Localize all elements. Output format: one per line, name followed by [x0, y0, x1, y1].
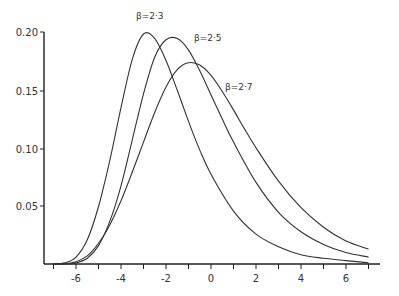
curve-beta-2-3 — [54, 33, 369, 264]
x-tick-label: -2 — [161, 273, 171, 284]
y-tick-label: 0.20 — [16, 27, 38, 38]
x-tick-label: 0 — [208, 273, 214, 284]
y-tick-label: 0.05 — [16, 201, 38, 212]
y-ticks: 0.20 0.15 0.10 0.05 — [16, 27, 44, 212]
series-label-beta-2-5: β=2·5 — [194, 33, 222, 43]
x-tick-label: 2 — [253, 273, 259, 284]
x-tick-label: -4 — [116, 273, 126, 284]
x-tick-label: -6 — [71, 273, 81, 284]
plot-area: 0.20 0.15 0.10 0.05 -6 -4 -2 0 2 4 6 β=2… — [16, 11, 380, 284]
chart: 0.20 0.15 0.10 0.05 -6 -4 -2 0 2 4 6 β=2… — [0, 0, 399, 296]
y-tick-label: 0.10 — [16, 144, 38, 155]
curve-beta-2-5 — [54, 37, 369, 264]
x-tick-label: 6 — [343, 273, 349, 284]
x-tick-label: 4 — [298, 273, 304, 284]
curve-beta-2-7 — [54, 63, 369, 265]
series-label-beta-2-7: β=2·7 — [225, 82, 253, 92]
x-ticks — [54, 264, 369, 269]
y-tick-label: 0.15 — [16, 86, 38, 97]
series-label-beta-2-3: β=2·3 — [136, 11, 164, 21]
x-tick-labels: -6 -4 -2 0 2 4 6 — [71, 273, 349, 284]
